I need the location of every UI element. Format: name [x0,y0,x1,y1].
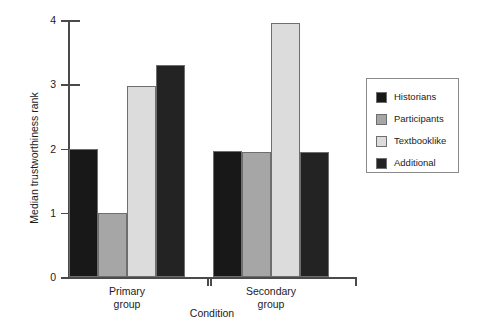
legend-item-label: Additional [394,158,436,168]
bar [213,151,242,277]
bar [242,152,271,277]
plot-area: Median trustworthiness rank 43210 Primar… [0,0,478,329]
legend-item-label: Participants [394,114,444,124]
chart-figure: Median trustworthiness rank 43210 Primar… [0,0,478,329]
legend-item: Historians [376,91,436,103]
x-axis-title: Condition [162,307,262,319]
legend-swatch-icon [376,136,387,147]
legend-swatch-icon [376,158,387,169]
bar [127,86,156,277]
bar [98,213,127,277]
legend-item-label: Textbooklike [394,136,446,146]
y-axis-tick-label: 4 [38,15,56,26]
y-axis-tick-mark [61,20,80,22]
y-axis-tick-mark [61,84,80,86]
x-axis-tick-mark [355,277,357,286]
legend-swatch-icon [376,114,387,125]
x-axis-line [68,277,356,279]
legend-swatch-icon [376,92,387,103]
y-axis-tick-mark [61,277,80,279]
legend-item: Additional [376,157,436,169]
legend-item-label: Historians [394,92,436,102]
bar [300,152,329,277]
bar [69,149,98,278]
bar [271,23,300,277]
bar [156,65,185,277]
chart-legend: HistoriansParticipantsTextbooklikeAdditi… [366,78,459,173]
legend-item: Participants [376,113,444,125]
y-axis-tick-label: 2 [38,144,56,155]
y-axis-tick-label: 0 [38,272,56,283]
y-axis-tick-label: 3 [38,79,56,90]
legend-item: Textbooklike [376,135,446,147]
x-axis-tick-mark [210,277,212,286]
y-axis-tick-label: 1 [38,208,56,219]
x-axis-tick-mark [207,277,209,286]
